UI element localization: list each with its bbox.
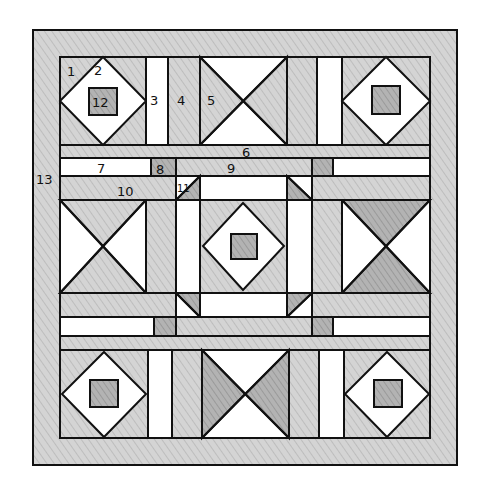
quilt-diagram: 1 2 3 4 5 6 7 8 9 10 11 12 13 — [0, 0, 478, 493]
square-dark-lower-right — [312, 317, 333, 336]
hst-lower-right — [287, 293, 312, 317]
strip-light-center-bottom — [200, 293, 287, 317]
strip-light-top-right — [317, 57, 342, 145]
label-9: 9 — [227, 161, 235, 176]
label-3: 3 — [150, 93, 158, 108]
strip-medium-mid-left — [146, 200, 176, 293]
strip-medium-lower-right — [312, 293, 430, 317]
strip-medium-bottom-right — [289, 350, 319, 438]
strip-medium-mid-right — [312, 200, 342, 293]
label-10: 10 — [117, 184, 134, 199]
diamond-block-center — [200, 200, 287, 293]
strip-light-7 — [60, 158, 151, 176]
label-1: 1 — [67, 64, 75, 79]
label-5: 5 — [207, 93, 215, 108]
sashing-band-lower — [60, 336, 430, 350]
strip-light-right — [333, 158, 430, 176]
label-6: 6 — [242, 145, 250, 160]
label-2: 2 — [94, 63, 102, 78]
label-11: 11 — [177, 183, 190, 194]
diamond-block-top-right — [342, 57, 430, 145]
strip-light-bottom-left — [148, 350, 172, 438]
strip-light-mid-left — [176, 200, 200, 293]
strip-medium-9 — [176, 158, 312, 176]
hourglass-block-mid-left — [60, 200, 146, 293]
label-12: 12 — [92, 95, 109, 110]
square-dark-lower-left — [154, 317, 176, 336]
strip-light-center-top — [200, 176, 287, 200]
label-4: 4 — [177, 93, 185, 108]
hourglass-block-mid-right — [342, 200, 430, 293]
square-dark-right — [312, 158, 333, 176]
label-7: 7 — [97, 161, 105, 176]
diamond-block-bottom-right — [344, 350, 430, 438]
label-8: 8 — [156, 162, 164, 177]
strip-medium-row-lower-center — [176, 317, 312, 336]
diamond-block-bottom-left — [60, 350, 148, 438]
strip-light-bottom-right — [319, 350, 344, 438]
hst-top-right — [287, 176, 312, 200]
label-13: 13 — [36, 172, 53, 187]
strip-medium-lower-left — [60, 293, 176, 317]
hst-lower-left — [176, 293, 200, 317]
strip-light-row-lower-right — [333, 317, 430, 336]
hourglass-block-bottom — [202, 350, 289, 438]
strip-light-mid-right — [287, 200, 312, 293]
strip-medium-top-right — [287, 57, 317, 145]
strip-medium-right-row10 — [312, 176, 430, 200]
strip-medium-bottom-left — [172, 350, 202, 438]
strip-light-row-lower-left — [60, 317, 154, 336]
